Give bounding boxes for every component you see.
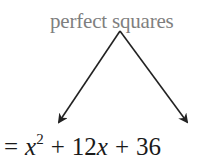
term-x-linear: x — [97, 133, 108, 160]
equals-sign: = — [4, 133, 18, 160]
term-x: x — [25, 133, 36, 160]
exponent: 2 — [36, 131, 44, 147]
constant-term: 36 — [136, 133, 161, 160]
right-arrow — [120, 31, 187, 122]
left-arrow — [59, 31, 120, 122]
equation: =x2+12x+36 — [4, 133, 161, 161]
coefficient: 12 — [72, 133, 97, 160]
plus-sign: + — [51, 133, 65, 160]
plus-sign-2: + — [115, 133, 129, 160]
